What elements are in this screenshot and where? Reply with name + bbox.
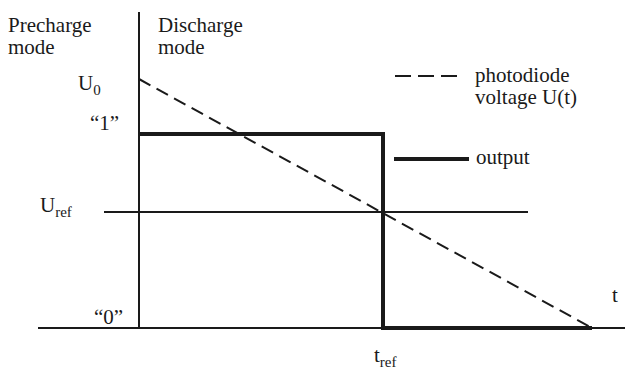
discharge-mode-label: Discharge mode: [158, 14, 243, 58]
tref-sub: ref: [380, 354, 397, 370]
uref-sub: ref: [55, 204, 72, 220]
photodiode-voltage-line: [139, 79, 592, 328]
logic-low-label: “0”: [94, 306, 123, 328]
tref-label: tref: [374, 344, 397, 368]
tref-main: t: [374, 343, 380, 367]
time-axis-label: t: [612, 284, 618, 306]
precharge-line2: mode: [8, 36, 92, 58]
u0-label: U0: [78, 72, 101, 96]
timing-diagram: Precharge mode Discharge mode U0 “1” Ure…: [0, 0, 637, 378]
discharge-line1: Discharge: [158, 14, 243, 36]
logic-high-label: “1”: [90, 112, 119, 134]
uref-main: U: [40, 193, 55, 217]
legend-photodiode-line1: photodiode: [475, 64, 577, 86]
u0-sub: 0: [93, 82, 101, 98]
precharge-line1: Precharge: [8, 14, 92, 36]
precharge-mode-label: Precharge mode: [8, 14, 92, 58]
legend-photodiode-line2: voltage U(t): [475, 86, 577, 108]
legend-photodiode-label: photodiode voltage U(t): [475, 64, 577, 108]
discharge-line2: mode: [158, 36, 243, 58]
uref-label: Uref: [40, 194, 72, 218]
u0-main: U: [78, 71, 93, 95]
legend-output-label: output: [476, 146, 530, 168]
